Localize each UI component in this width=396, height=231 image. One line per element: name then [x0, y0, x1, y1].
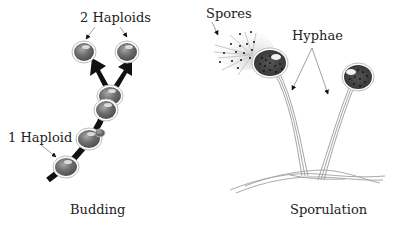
left-stalk [273, 68, 308, 176]
sporulation-title: Sporulation [290, 202, 368, 217]
sporangium-left [252, 48, 288, 78]
budding-cell-middle [76, 128, 105, 150]
label-two-haploids: 2 Haploids [80, 10, 151, 25]
pointer-two-haploids-right [120, 27, 127, 37]
budding-title: Budding [70, 202, 125, 217]
sporangium-right [342, 63, 374, 91]
right-stalk [318, 85, 354, 180]
pointer-two-haploids-left [86, 27, 95, 39]
pointer-one-haploid [40, 144, 56, 157]
haploid-cell-top-left [72, 41, 96, 63]
haploid-cell-top-right [115, 41, 139, 63]
dividing-cell-upper [94, 85, 123, 121]
label-spores: Spores [206, 6, 252, 21]
pointer-spores [212, 22, 218, 35]
budding-panel: 2 Haploids 1 Haploid Budding [8, 10, 151, 217]
sporulation-panel: Spores Hyphae Sporulation [206, 6, 385, 217]
diagram-canvas: 2 Haploids 1 Haploid Budding [0, 0, 396, 231]
diagram-svg: 2 Haploids 1 Haploid Budding [0, 0, 396, 231]
haploid-cell-bottom [53, 156, 79, 178]
pointer-hyphae-left [292, 48, 312, 90]
pointer-hyphae-right [312, 48, 328, 94]
label-one-haploid: 1 Haploid [8, 130, 72, 145]
label-hyphae: Hyphae [292, 28, 343, 43]
